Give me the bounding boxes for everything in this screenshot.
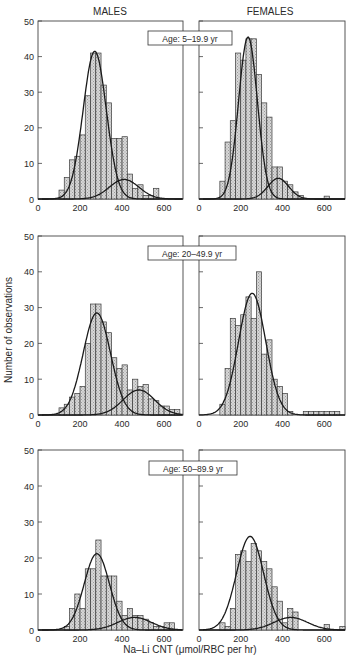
histogram-bar: [85, 343, 90, 415]
y-tick-label: 50: [24, 446, 34, 456]
panel-males-1: 010203040500200400600: [24, 17, 183, 214]
y-tick-label: 50: [24, 232, 34, 242]
y-tick-label: 10: [24, 375, 34, 385]
histogram-bar: [256, 272, 261, 415]
y-tick-label: 30: [24, 518, 34, 528]
x-tick-label: 200: [233, 419, 248, 429]
panel-females-1: 0200400600: [196, 21, 345, 213]
histogram-bar: [101, 322, 106, 415]
column-title-females: FEMALES: [247, 6, 294, 17]
x-tick-label: 200: [73, 634, 88, 644]
histogram-bar: [251, 544, 256, 630]
histogram-bar: [251, 318, 256, 415]
histogram-bar: [80, 386, 85, 415]
x-tick-label: 600: [317, 419, 332, 429]
x-tick-label: 600: [157, 419, 172, 429]
x-tick-label: 600: [157, 634, 172, 644]
column-title-males: MALES: [93, 6, 127, 17]
panel-males-2: 010203040500200400600: [24, 232, 183, 430]
histogram-bar: [241, 551, 246, 630]
x-tick-label: 0: [196, 634, 201, 644]
histogram-bar: [117, 138, 122, 199]
histogram-bar: [117, 368, 122, 415]
histogram-bar: [293, 612, 298, 630]
y-tick-label: 10: [24, 159, 34, 169]
histogram-bar: [241, 60, 246, 199]
histogram-bar: [122, 365, 127, 415]
histogram-bar: [230, 608, 235, 630]
y-tick-label: 30: [24, 88, 34, 98]
x-tick-label: 600: [317, 203, 332, 213]
histogram-figure: MALES FEMALES Number of observations Na–…: [0, 0, 357, 660]
histogram-bar: [288, 608, 293, 630]
y-tick-label: 20: [24, 339, 34, 349]
x-tick-label: 0: [35, 634, 40, 644]
histogram-bar: [246, 39, 251, 199]
histogram-bar: [96, 53, 101, 199]
x-tick-label: 400: [275, 634, 290, 644]
x-tick-label: 400: [275, 203, 290, 213]
histogram-bar: [91, 53, 96, 199]
y-tick-label: 30: [24, 303, 34, 313]
histogram-bar: [148, 399, 153, 415]
x-tick-label: 400: [115, 203, 130, 213]
histogram-bar: [230, 318, 235, 415]
age-label-box-2: Age: 20–49.9 yr: [148, 246, 236, 260]
y-tick-label: 0: [29, 411, 34, 421]
histogram-bar: [91, 569, 96, 630]
x-tick-label: 200: [73, 419, 88, 429]
y-tick-label: 20: [24, 123, 34, 133]
histogram-bar: [148, 623, 153, 630]
histogram-bar: [122, 137, 127, 199]
x-tick-label: 0: [196, 203, 201, 213]
x-tick-label: 200: [233, 203, 248, 213]
x-tick-label: 600: [157, 203, 172, 213]
histogram-bar: [112, 576, 117, 630]
panel-females-3: 0200400600: [196, 450, 345, 644]
y-tick-label: 20: [24, 554, 34, 564]
histogram-bar: [262, 354, 267, 415]
x-tick-label: 0: [35, 203, 40, 213]
age-label-box-3: Age: 50–89.9 yr: [149, 461, 237, 475]
panels: 0102030405002004006000200400600010203040…: [24, 17, 345, 645]
age-label-1: Age: 5–19.9 yr: [162, 34, 217, 44]
histogram-bar: [246, 562, 251, 630]
histogram-bar: [277, 601, 282, 630]
x-tick-label: 400: [115, 634, 130, 644]
histogram-bar: [80, 135, 85, 199]
y-tick-label: 40: [24, 267, 34, 277]
x-tick-label: 0: [35, 419, 40, 429]
histogram-bar: [96, 304, 101, 415]
x-axis-label: Na–Li CNT (μmol/RBC per hr): [123, 644, 256, 655]
y-tick-label: 40: [24, 52, 34, 62]
histogram-bar: [241, 315, 246, 415]
y-tick-label: 40: [24, 482, 34, 492]
histogram-bar: [80, 608, 85, 630]
histogram-bar: [230, 121, 235, 199]
histogram-bar: [143, 385, 148, 415]
histogram-bar: [277, 167, 282, 199]
histogram-bar: [127, 174, 132, 199]
histogram-bar: [246, 297, 251, 415]
histogram-bar: [262, 562, 267, 630]
histogram-bar: [220, 623, 225, 630]
histogram-bar: [282, 394, 287, 415]
histogram-bar: [267, 569, 272, 630]
x-tick-label: 200: [73, 203, 88, 213]
y-tick-label: 10: [24, 590, 34, 600]
histogram-bar: [133, 188, 138, 199]
histogram-bar: [112, 138, 117, 199]
y-tick-label: 0: [29, 195, 34, 205]
x-tick-label: 600: [317, 634, 332, 644]
y-axis-label: Number of observations: [3, 277, 14, 383]
age-label-2: Age: 20–49.9 yr: [162, 249, 222, 259]
histogram-bar: [85, 96, 90, 199]
histogram-bar: [236, 326, 241, 416]
y-tick-label: 0: [29, 626, 34, 636]
y-tick-label: 50: [24, 17, 34, 27]
x-tick-label: 200: [233, 634, 248, 644]
x-tick-label: 0: [196, 419, 201, 429]
age-label-3: Age: 50–89.9 yr: [163, 464, 223, 474]
histogram-bar: [101, 576, 106, 630]
x-tick-label: 400: [275, 419, 290, 429]
